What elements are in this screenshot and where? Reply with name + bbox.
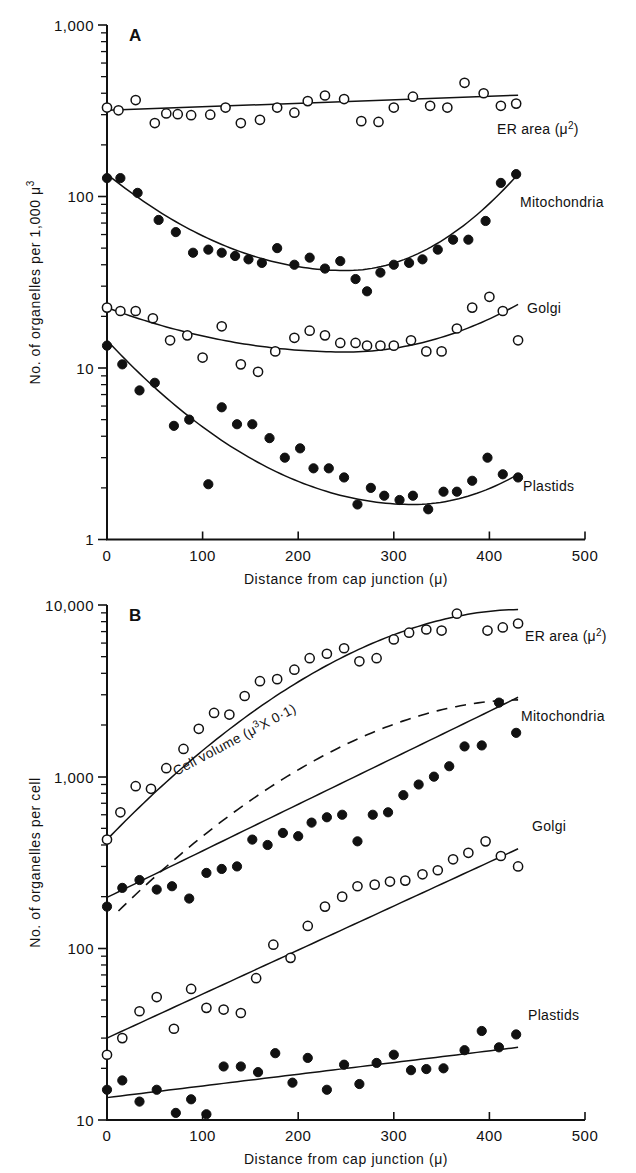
data-point-filled — [263, 840, 272, 849]
data-point-open — [236, 360, 245, 369]
data-point-filled — [171, 1108, 180, 1117]
series-points-B-1 — [102, 698, 520, 911]
data-point-filled — [204, 480, 213, 489]
series-label-mito-A: Mitochondria — [520, 194, 604, 210]
data-point-filled — [494, 698, 503, 707]
data-point-filled — [460, 742, 469, 751]
data-point-filled — [150, 378, 159, 387]
fit-line-0 — [107, 610, 518, 840]
data-point-open — [452, 324, 461, 333]
ytick-label-B-1: 1,000 — [54, 769, 94, 786]
data-point-filled — [102, 1085, 111, 1094]
data-point-filled — [265, 434, 274, 443]
data-point-filled — [324, 464, 333, 473]
data-point-open — [290, 108, 299, 117]
data-point-filled — [439, 1064, 448, 1073]
data-point-open — [353, 882, 362, 891]
data-point-filled — [481, 216, 490, 225]
data-point-filled — [452, 487, 461, 496]
yaxis-title-B: No. of organelles per cell — [27, 777, 43, 947]
data-point-open — [116, 306, 125, 315]
data-point-open — [389, 341, 398, 350]
data-point-open — [422, 347, 431, 356]
data-point-filled — [307, 818, 316, 827]
data-point-open — [221, 103, 230, 112]
data-point-open — [320, 902, 329, 911]
xaxis-title-A: Distance from cap junction (μ) — [244, 571, 448, 587]
xtick-label-A-4: 400 — [476, 547, 503, 564]
series-label-er-A: ER area (μ2) — [497, 120, 579, 137]
xaxis-title-B: Distance from cap junction (μ) — [244, 1151, 448, 1167]
data-point-open — [187, 111, 196, 120]
data-point-open — [389, 103, 398, 112]
data-point-open — [286, 953, 295, 962]
data-point-filled — [202, 868, 211, 877]
data-point-filled — [152, 1085, 161, 1094]
series-points-A-0 — [102, 78, 520, 127]
data-point-open — [513, 619, 522, 628]
data-point-filled — [188, 248, 197, 257]
data-point-open — [102, 835, 111, 844]
cellvolume-label-group: Cell volume (μ3X 0·1) — [169, 699, 298, 778]
axes-panel-B: 10,0001,000100100100200300400500Distance… — [45, 597, 598, 1168]
data-point-open — [479, 89, 488, 98]
data-point-open — [498, 306, 507, 315]
data-point-open — [336, 338, 345, 347]
data-point-filled — [133, 188, 142, 197]
data-point-filled — [257, 258, 266, 267]
data-point-open — [206, 110, 215, 119]
data-point-open — [165, 336, 174, 345]
data-point-open — [460, 78, 469, 87]
data-point-open — [305, 326, 314, 335]
data-point-filled — [418, 255, 427, 264]
data-point-open — [209, 708, 218, 717]
data-point-open — [198, 353, 207, 362]
data-point-open — [253, 367, 262, 376]
data-point-open — [426, 101, 435, 110]
data-point-filled — [389, 260, 398, 269]
panel-letter-A: A — [129, 26, 141, 45]
data-point-filled — [118, 1076, 127, 1085]
data-point-open — [338, 892, 347, 901]
data-point-filled — [483, 453, 492, 462]
data-point-open — [452, 609, 461, 618]
data-point-open — [252, 974, 261, 983]
data-point-open — [389, 635, 398, 644]
yaxis-title-text-A: No. of organelles per 1,000 μ3 — [25, 180, 43, 384]
data-point-open — [236, 118, 245, 127]
data-point-filled — [135, 875, 144, 884]
data-point-filled — [290, 260, 299, 269]
xtick-label-A-0: 0 — [103, 547, 112, 564]
fit-line-2 — [107, 849, 518, 1038]
data-point-filled — [187, 1095, 196, 1104]
data-point-open — [513, 862, 522, 871]
data-point-open — [372, 654, 381, 663]
data-point-open — [255, 115, 264, 124]
data-point-filled — [429, 772, 438, 781]
data-point-open — [362, 341, 371, 350]
panel-letter-B: B — [129, 606, 141, 625]
data-point-open — [512, 99, 521, 108]
data-point-open — [269, 940, 278, 949]
data-point-filled — [280, 453, 289, 462]
data-point-filled — [152, 885, 161, 894]
data-point-filled — [248, 835, 257, 844]
data-point-filled — [339, 1060, 348, 1069]
data-point-filled — [248, 420, 257, 429]
data-point-open — [374, 117, 383, 126]
data-point-open — [422, 625, 431, 634]
data-point-open — [148, 314, 157, 323]
data-point-filled — [414, 780, 423, 789]
data-point-open — [433, 866, 442, 875]
series-label-er-B: ER area (μ2) — [525, 627, 607, 644]
series-label-plastids-B: Plastids — [528, 1007, 579, 1023]
data-point-open — [194, 724, 203, 733]
data-point-filled — [424, 505, 433, 514]
xtick-label-A-5: 500 — [572, 547, 599, 564]
series-points-B-0 — [102, 609, 522, 844]
data-point-open — [150, 118, 159, 127]
data-point-filled — [204, 245, 213, 254]
data-point-open — [217, 322, 226, 331]
data-point-open — [187, 984, 196, 993]
data-point-filled — [169, 421, 178, 430]
